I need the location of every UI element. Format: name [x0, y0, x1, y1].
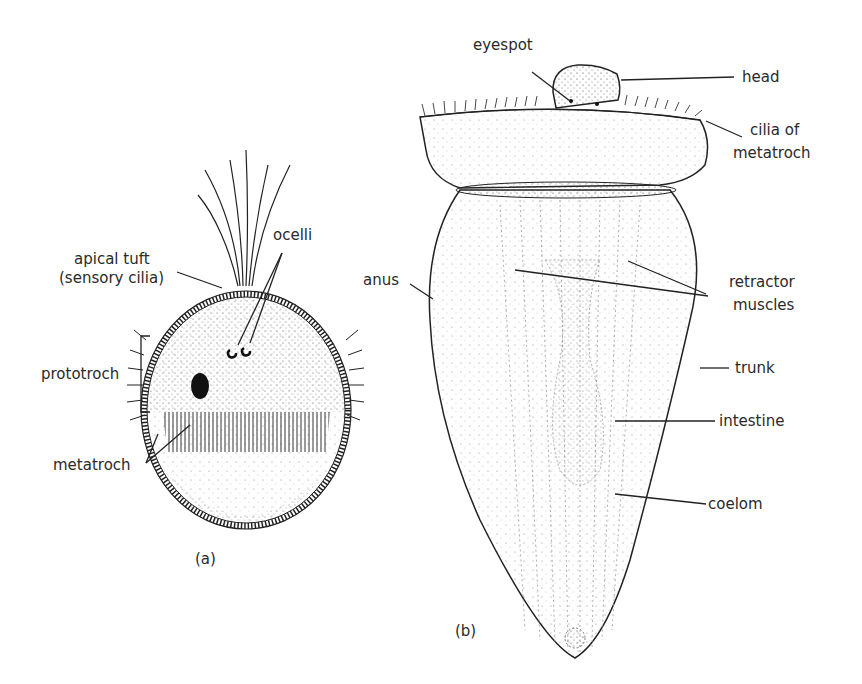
label-eyespot: eyespot: [473, 36, 533, 54]
trunk: [429, 190, 696, 658]
leader-cilia-of-metatroch: [706, 121, 742, 137]
label-retractor: retractor: [729, 273, 796, 291]
label-cilia-of: cilia of: [750, 121, 800, 139]
metatroch-collar: [420, 95, 708, 198]
label-muscles: muscles: [733, 296, 795, 314]
label-intestine: intestine: [719, 412, 784, 430]
label-apical-tuft: apical tuft: [74, 250, 150, 268]
label-metatroch-b: metatroch: [733, 144, 811, 162]
panel-a-trochophore-larva: apical tuft (sensory cilia) ocelli proto…: [41, 150, 364, 568]
label-coelom: coelom: [708, 495, 763, 513]
caption-b: (b): [455, 622, 476, 640]
dark-organ: [191, 373, 209, 399]
panel-b-adult: eyespot head cilia of metatroch anus ret…: [363, 36, 811, 658]
label-metatroch: metatroch: [53, 456, 131, 474]
leader-apical-tuft: [177, 272, 222, 288]
leader-head: [621, 77, 734, 80]
diagram-canvas: apical tuft (sensory cilia) ocelli proto…: [0, 0, 862, 684]
label-sensory-cilia: (sensory cilia): [59, 269, 164, 287]
larva-body: [127, 291, 364, 529]
caption-a: (a): [195, 550, 216, 568]
label-trunk: trunk: [735, 359, 775, 377]
label-anus: anus: [363, 271, 399, 289]
label-head: head: [742, 68, 779, 86]
label-ocelli: ocelli: [273, 226, 312, 244]
head: [553, 65, 620, 108]
label-prototroch: prototroch: [41, 365, 119, 383]
